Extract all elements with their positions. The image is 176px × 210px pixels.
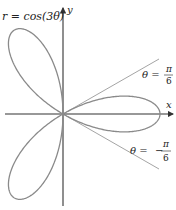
equation-label: r = cos(3θ) [2, 10, 64, 23]
svg-text:6: 6 [163, 153, 169, 163]
ray-minus-pi-over-6 [63, 114, 159, 169]
ray-plus-pi-over-6 [63, 59, 159, 114]
svg-text:θ =: θ = [142, 69, 160, 80]
x-axis-label: x [166, 99, 172, 110]
svg-text:π: π [165, 64, 173, 74]
y-axis-label: y [66, 4, 73, 15]
polar-rose-diagram: r = cos(3θ) y x θ = π 6 θ = − π 6 [0, 0, 176, 210]
upper-ray-label: θ = π 6 [142, 64, 173, 86]
svg-text:π: π [162, 139, 170, 149]
lower-ray-label: θ = − π 6 [130, 139, 171, 163]
svg-text:θ =: θ = [130, 145, 148, 156]
svg-text:6: 6 [166, 76, 172, 86]
